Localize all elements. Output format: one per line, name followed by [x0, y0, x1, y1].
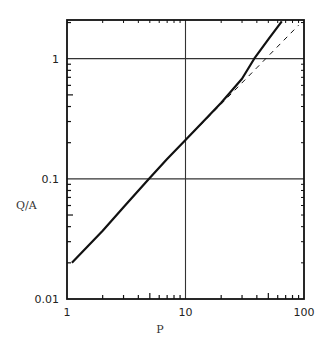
- x-axis-label: P: [156, 323, 164, 336]
- dashed-asymptote-line: [186, 25, 299, 140]
- x-tick-label: 100: [294, 306, 315, 319]
- solid-curve-line: [72, 21, 282, 262]
- chart: 1101000.010.11PQ/A: [0, 0, 328, 339]
- y-tick-label: 1: [52, 53, 59, 66]
- x-tick-label: 1: [64, 306, 71, 319]
- x-tick-label: 10: [179, 306, 193, 319]
- y-tick-label: 0.01: [35, 293, 60, 306]
- y-tick-label: 0.1: [42, 173, 60, 186]
- y-axis-label: Q/A: [16, 199, 38, 212]
